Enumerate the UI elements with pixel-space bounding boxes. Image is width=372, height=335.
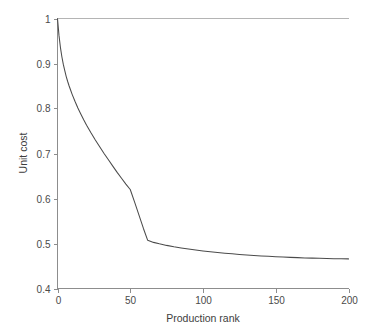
chart-background [0, 0, 372, 335]
x-tick-label: 150 [268, 295, 285, 306]
line-chart: 0.40.50.60.70.80.91 050100150200 Product… [0, 0, 372, 335]
y-tick-label: 0.8 [37, 103, 51, 114]
x-tick-label: 0 [56, 295, 62, 306]
y-tick-label: 0.7 [37, 149, 51, 160]
y-tick-label: 0.6 [37, 194, 51, 205]
x-tick-label: 50 [125, 295, 137, 306]
y-tick-label: 0.5 [37, 239, 51, 250]
y-tick-label: 0.9 [37, 59, 51, 70]
x-tick-label: 100 [195, 295, 212, 306]
y-tick-label: 0.4 [37, 284, 51, 295]
y-axis-title: Unit cost [17, 133, 29, 174]
x-axis-title: Production rank [166, 312, 240, 324]
y-tick-label: 1 [45, 14, 51, 25]
x-tick-label: 200 [341, 295, 358, 306]
chart-figure: 0.40.50.60.70.80.91 050100150200 Product… [0, 0, 372, 335]
